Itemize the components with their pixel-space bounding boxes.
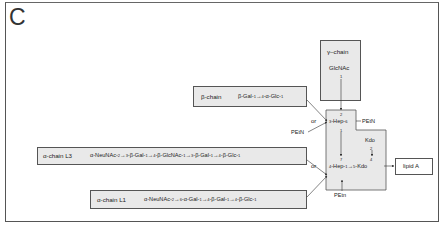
gamma-link-from: 1 — [340, 73, 342, 80]
gamma-residue-glcnac: GlcNAc — [329, 65, 349, 72]
petn-left-label: PEtN — [291, 129, 304, 136]
alpha-chain-l1-sequence: α-NeuNAc-2→6-α-Gal-1→4-β-Gal-1→4-β-Glc-1 — [144, 196, 256, 203]
beta-chain-sequence: β-Gal-1→4-α-Glc-1 — [238, 93, 283, 100]
hep-link-to: 7 — [340, 156, 342, 163]
hep-top-position-2: 2 — [340, 111, 342, 118]
lipid-a-label: lipid A — [403, 163, 419, 170]
hep-top: 3-Hep-6 — [329, 118, 347, 125]
alpha-chain-l3-sequence: α-NeuNAc-2→3-β-Gal-1→4-β-GlcNAc-1→3-β-Ga… — [90, 152, 240, 159]
beta-chain-label: β-chain — [201, 93, 221, 100]
gamma-chain-label: γ–chain — [327, 48, 348, 55]
hep-bottom-petn: PEtn — [334, 192, 346, 199]
alpha-chain-l1-label: α-chain L1 — [97, 196, 126, 203]
or-label-bottom: or — [311, 163, 316, 170]
kdo-side-to: 4 — [370, 156, 372, 163]
alpha-chain-l3-label: α-chain L3 — [43, 152, 72, 159]
figure-frame — [5, 2, 439, 222]
or-label-top: or — [311, 118, 316, 125]
panel-letter: C — [9, 4, 26, 30]
hep-link-from: 1 — [340, 127, 342, 134]
hep-bottom-kdo: 4-Hep-1→5-Kdo — [329, 163, 367, 170]
kdo-side-label: Kdo — [365, 137, 375, 144]
hep-top-petn: PEtN — [362, 118, 375, 125]
kdo-side-from: 2 — [370, 145, 372, 152]
